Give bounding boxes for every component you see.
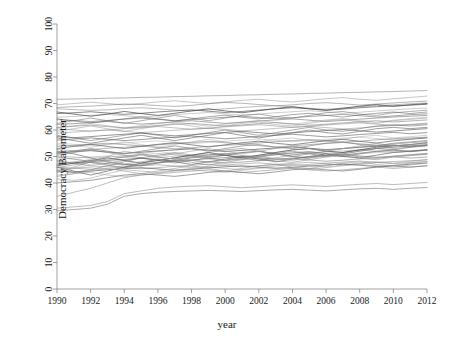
svg-text:60: 60	[44, 125, 54, 135]
svg-text:2004: 2004	[283, 296, 302, 306]
svg-text:80: 80	[44, 72, 54, 82]
svg-text:2008: 2008	[350, 296, 369, 306]
svg-text:2000: 2000	[216, 296, 235, 306]
chart-container: 1990199219941996199820002002200420062008…	[0, 0, 454, 338]
line-chart-svg: 1990199219941996199820002002200420062008…	[0, 0, 454, 338]
svg-text:1992: 1992	[81, 296, 100, 306]
x-axis-title: year	[0, 318, 454, 330]
x-axis-ticks: 1990199219941996199820002002200420062008…	[48, 289, 437, 306]
svg-text:1996: 1996	[148, 296, 167, 306]
svg-text:10: 10	[44, 258, 54, 268]
data-series-layer	[57, 91, 427, 211]
svg-text:1994: 1994	[115, 296, 134, 306]
svg-text:70: 70	[44, 99, 54, 109]
svg-text:30: 30	[44, 205, 54, 215]
svg-text:1990: 1990	[48, 296, 67, 306]
svg-text:0: 0	[44, 286, 54, 291]
y-axis-title: Democracy Barometer	[56, 119, 68, 219]
svg-text:2006: 2006	[317, 296, 336, 306]
svg-text:2002: 2002	[249, 296, 268, 306]
svg-text:2012: 2012	[418, 296, 437, 306]
svg-text:20: 20	[44, 231, 54, 241]
svg-text:2010: 2010	[384, 296, 403, 306]
svg-text:1998: 1998	[182, 296, 201, 306]
svg-text:100: 100	[44, 17, 54, 32]
svg-text:50: 50	[44, 152, 54, 162]
svg-text:40: 40	[44, 178, 54, 188]
svg-text:90: 90	[44, 46, 54, 56]
